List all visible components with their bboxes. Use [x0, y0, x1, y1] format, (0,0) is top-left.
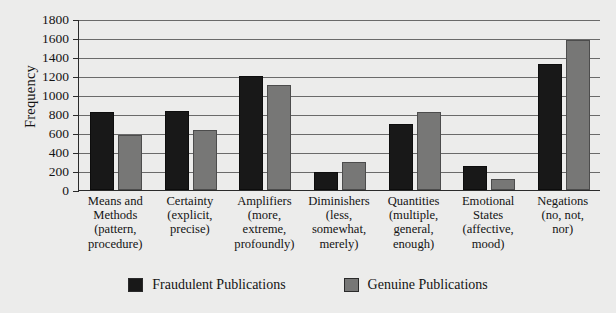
bar [389, 124, 413, 191]
x-category-label-line: Emotional [451, 194, 526, 208]
legend-item: Genuine Publications [344, 277, 488, 293]
x-category-label: Negations(no, not,nor) [525, 194, 600, 237]
bar-group [228, 20, 303, 190]
bar [491, 179, 515, 190]
y-tick-label: 600 [49, 127, 69, 141]
y-tick-label: 1000 [42, 89, 69, 103]
bar [90, 112, 114, 190]
x-category-label-line: procedure) [78, 237, 153, 251]
x-axis-category-labels: Means andMethods(pattern,procedure)Certa… [78, 194, 600, 266]
x-category-label-line: (affective, [451, 222, 526, 236]
legend-item: Fraudulent Publications [128, 277, 285, 293]
x-category-label: Diminishers(less,somewhat,merely) [302, 194, 377, 251]
x-category-label-line: (multiple, [376, 208, 451, 222]
y-tick-label: 800 [49, 108, 69, 122]
x-category-label: Quantities(multiple,general,enough) [376, 194, 451, 251]
x-category-label: Amplifiers(more,extreme,profoundly) [227, 194, 302, 251]
bar [538, 64, 562, 190]
y-tick-label: 0 [62, 184, 69, 198]
x-category-label-line: States [451, 208, 526, 222]
bar-group [377, 20, 452, 190]
x-category-label-line: (no, not, [525, 208, 600, 222]
x-category-label-line: (more, [227, 208, 302, 222]
bar-group [154, 20, 229, 190]
x-category-label-line: mood) [451, 237, 526, 251]
bar [193, 130, 217, 190]
x-category-label-line: Means and [78, 194, 153, 208]
x-category-label-line: (explicit, [153, 208, 228, 222]
bar [417, 112, 441, 190]
y-axis-tick [73, 191, 79, 192]
y-tick-label: 400 [49, 146, 69, 160]
y-tick-label: 200 [49, 165, 69, 179]
x-category-label-line: Certainty [153, 194, 228, 208]
x-category-label-line: somewhat, [302, 222, 377, 236]
x-category-label-line: Negations [525, 194, 600, 208]
x-category-label: EmotionalStates(affective,mood) [451, 194, 526, 251]
bar [314, 172, 338, 190]
legend-label: Fraudulent Publications [152, 277, 285, 293]
x-category-label-line: merely) [302, 237, 377, 251]
x-category-label-line: precise) [153, 222, 228, 236]
x-category-label-line: (less, [302, 208, 377, 222]
y-tick-label: 1400 [42, 51, 69, 65]
x-category-label-line: Methods [78, 208, 153, 222]
x-category-label-line: enough) [376, 237, 451, 251]
legend-swatch [344, 278, 359, 292]
bar-chart-figure: Frequency 020040060080010001200140016001… [0, 0, 616, 313]
bar [566, 40, 590, 190]
x-category-label-line: (pattern, [78, 222, 153, 236]
legend: Fraudulent PublicationsGenuine Publicati… [0, 277, 616, 293]
bar-group [452, 20, 527, 190]
y-axis-tick-labels: 020040060080010001200140016001800 [0, 20, 78, 191]
x-category-label-line: extreme, [227, 222, 302, 236]
y-tick-label: 1800 [42, 13, 69, 27]
legend-label: Genuine Publications [368, 277, 488, 293]
x-category-label: Certainty(explicit,precise) [153, 194, 228, 237]
bar [342, 162, 366, 191]
y-tick-label: 1600 [42, 32, 69, 46]
y-tick-label: 1200 [42, 70, 69, 84]
x-category-label-line: Quantities [376, 194, 451, 208]
bar [239, 76, 263, 190]
x-category-label-line: Diminishers [302, 194, 377, 208]
bar [165, 111, 189, 190]
x-category-label-line: Amplifiers [227, 194, 302, 208]
x-category-label: Means andMethods(pattern,procedure) [78, 194, 153, 251]
x-category-label-line: nor) [525, 222, 600, 236]
legend-swatch [128, 278, 143, 292]
bar-group [79, 20, 154, 190]
bar [267, 85, 291, 190]
bar [463, 166, 487, 190]
bar-group [303, 20, 378, 190]
bar-group [526, 20, 601, 190]
x-category-label-line: profoundly) [227, 237, 302, 251]
plot-area [78, 20, 600, 191]
x-category-label-line: general, [376, 222, 451, 236]
bar [118, 135, 142, 190]
